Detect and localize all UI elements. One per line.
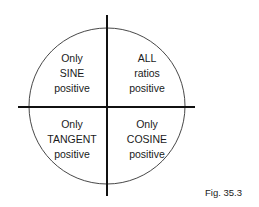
quadrant-text: TANGENT [37,132,107,147]
quadrant-text: Only [37,117,107,132]
quadrant-text: positive [37,81,107,96]
quadrant-top-left: Only SINE positive [37,51,107,96]
quadrant-text: Only [37,51,107,66]
quadrant-text: ratios [112,66,182,81]
quadrant-bottom-left: Only TANGENT positive [37,117,107,162]
quadrant-text: ALL [112,51,182,66]
quadrant-text: COSINE [112,132,182,147]
figure-caption: Fig. 35.3 [205,187,242,198]
quadrant-top-right: ALL ratios positive [112,51,182,96]
quadrant-text: Only [112,117,182,132]
quadrant-text: positive [112,81,182,96]
quadrant-diagram [0,0,259,207]
quadrant-text: SINE [37,66,107,81]
quadrant-text: positive [112,147,182,162]
quadrant-bottom-right: Only COSINE positive [112,117,182,162]
quadrant-text: positive [37,147,107,162]
